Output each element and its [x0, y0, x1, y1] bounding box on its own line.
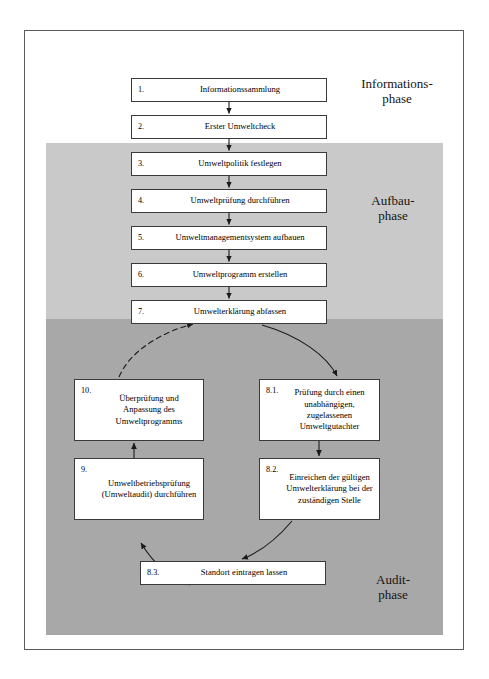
process-box-8-3[interactable]: 8.3. Standort eintragen lassen [140, 561, 326, 585]
box-label: Überprüfung und Anpassung des Umweltprog… [75, 388, 203, 432]
box-label: Umweltprogramm erstellen [132, 269, 326, 280]
box-label: Umwelterklärung abfassen [132, 306, 326, 317]
process-box-4[interactable]: 4. Umweltprüfung durchführen [131, 189, 327, 213]
box-label: Umweltprüfung durchführen [132, 195, 326, 206]
diagram-page: 1. Informationssammlung 2. Erster Umwelt… [0, 0, 489, 679]
phase-label-auditphase: Audit- phase [341, 572, 445, 603]
process-box-2[interactable]: 2. Erster Umweltcheck [131, 115, 327, 139]
process-box-5[interactable]: 5. Umweltmanagementsystem aufbauen [131, 226, 327, 250]
process-box-8-1[interactable]: 8.1. Prüfung durch einen unabhängigen, z… [259, 379, 380, 441]
box-number: 10. [81, 386, 91, 397]
phase-label-aufbauphase: Aufbau- phase [341, 193, 445, 224]
process-box-9[interactable]: 9. Umweltbetriebsprüfung (Umweltaudit) d… [74, 458, 204, 520]
box-number: 5. [138, 233, 144, 244]
box-number: 8.3. [147, 568, 159, 579]
phase-label-informationsphase: Informations- phase [341, 76, 453, 107]
box-label: Erster Umweltcheck [132, 121, 326, 132]
box-number: 8.2. [266, 465, 278, 476]
process-box-3[interactable]: 3. Umweltpolitik festlegen [131, 152, 327, 176]
box-label: Standort eintragen lassen [141, 567, 325, 578]
box-number: 8.1. [266, 386, 278, 397]
process-box-7[interactable]: 7. Umwelterklärung abfassen [131, 300, 327, 324]
process-box-1[interactable]: 1. Informationssammlung [131, 78, 327, 102]
box-label: Umweltpolitik festlegen [132, 158, 326, 169]
box-label: Umweltmanagementsystem aufbauen [132, 232, 326, 243]
box-label: Informationssammlung [132, 84, 326, 95]
box-number: 4. [138, 196, 144, 207]
box-number: 1. [138, 85, 144, 96]
box-number: 3. [138, 159, 144, 170]
box-label: Umweltbetriebsprüfung (Umweltaudit) durc… [75, 473, 203, 506]
box-number: 2. [138, 122, 144, 133]
process-box-10[interactable]: 10. Überprüfung und Anpassung des Umwelt… [74, 379, 204, 441]
box-number: 9. [81, 465, 87, 476]
box-number: 7. [138, 307, 144, 318]
process-box-6[interactable]: 6. Umweltprogramm erstellen [131, 263, 327, 287]
box-number: 6. [138, 270, 144, 281]
process-box-8-2[interactable]: 8.2. Einreichen der gültigen Umwelterklä… [259, 458, 380, 520]
